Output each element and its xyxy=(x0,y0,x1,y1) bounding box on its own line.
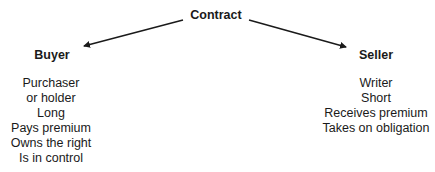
buyer-attributes: Purchaser or holder Long Pays premium Ow… xyxy=(11,76,92,166)
buyer-title: Buyer xyxy=(34,48,69,62)
seller-attribute: Short xyxy=(322,91,429,106)
buyer-attribute: Long xyxy=(11,106,92,121)
seller-title: Seller xyxy=(359,48,393,62)
buyer-attribute: Pays premium xyxy=(11,121,92,136)
buyer-attribute: Owns the right xyxy=(11,136,92,151)
contract-label: Contract xyxy=(190,8,241,22)
seller-attribute: Writer xyxy=(322,76,429,91)
buyer-attribute: or holder xyxy=(11,91,92,106)
seller-attribute: Receives premium xyxy=(322,106,429,121)
seller-attribute: Takes on obligation xyxy=(322,121,429,136)
buyer-attribute: Is in control xyxy=(11,151,92,166)
seller-attributes: Writer Short Receives premium Takes on o… xyxy=(322,76,429,136)
buyer-attribute: Purchaser xyxy=(11,76,92,91)
arrow-to-buyer xyxy=(84,20,183,46)
arrow-to-seller xyxy=(249,20,346,47)
